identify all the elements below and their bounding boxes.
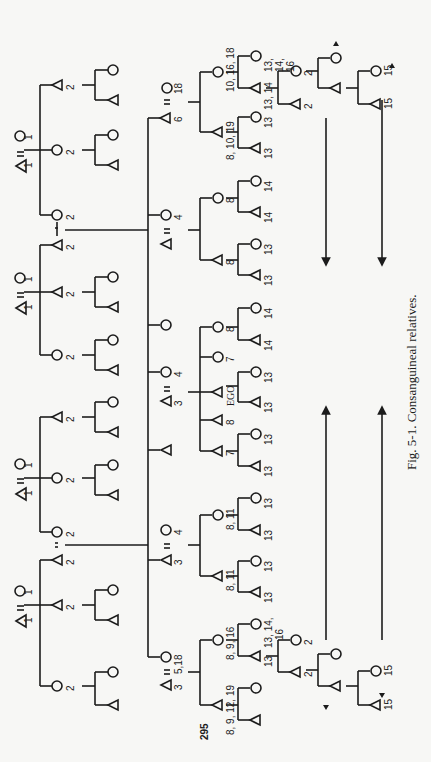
svg-text:2: 2 <box>65 416 76 422</box>
svg-text:8, 11: 8, 11 <box>225 508 236 530</box>
svg-text:13: 13 <box>263 591 274 603</box>
svg-text:13: 13 <box>263 529 274 541</box>
svg-text:6: 6 <box>173 116 184 122</box>
svg-text:4: 4 <box>173 371 184 377</box>
svg-text:3: 3 <box>173 400 184 406</box>
svg-text:1: 1 <box>23 304 34 310</box>
svg-text:5,18: 5,18 <box>173 654 184 674</box>
svg-text:2: 2 <box>65 559 76 565</box>
svg-text:13: 13 <box>263 147 274 159</box>
kinship-diagram: 1 1 1 1 1 1 1 1 2 2 2 2 2 2 2 2 2 2 2 2 … <box>0 0 431 762</box>
page-number: 295 <box>199 723 210 740</box>
circle-female-icon <box>52 210 62 220</box>
svg-text:13,: 13, <box>263 58 274 72</box>
svg-text:2: 2 <box>65 214 76 220</box>
svg-text:2: 2 <box>303 639 314 645</box>
svg-text:15: 15 <box>383 64 394 76</box>
svg-text:14,: 14, <box>274 58 285 72</box>
svg-text:2: 2 <box>65 244 76 250</box>
svg-text:18: 18 <box>173 82 184 94</box>
triangle-male-icon <box>52 80 62 90</box>
svg-text:8: 8 <box>225 259 236 265</box>
svg-text:13: 13 <box>263 116 274 128</box>
circle-female-icon <box>52 145 62 155</box>
svg-text:3: 3 <box>173 559 184 565</box>
svg-text:15: 15 <box>383 698 394 710</box>
svg-text:8, 10, 19: 8, 10, 19 <box>225 121 236 160</box>
svg-text:2: 2 <box>65 477 76 483</box>
svg-text:8, 9, 16: 8, 9, 16 <box>225 626 236 660</box>
svg-text:2: 2 <box>65 604 76 610</box>
svg-text:2: 2 <box>65 531 76 537</box>
svg-text:13: 13 <box>263 243 274 255</box>
svg-text:13: 13 <box>263 401 274 413</box>
svg-text:3: 3 <box>173 684 184 690</box>
svg-text:15: 15 <box>383 664 394 676</box>
svg-text:2: 2 <box>303 671 314 677</box>
svg-text:8: 8 <box>225 419 236 425</box>
svg-text:1: 1 <box>23 617 34 623</box>
svg-text:1: 1 <box>23 134 34 140</box>
svg-text:16: 16 <box>274 628 285 640</box>
svg-text:14: 14 <box>263 307 274 319</box>
svg-text:13: 13 <box>263 465 274 477</box>
svg-text:8, 11: 8, 11 <box>225 569 236 591</box>
figure-caption: Fig. 5-1. Consanguineal relatives. <box>404 295 419 470</box>
svg-text:2: 2 <box>65 84 76 90</box>
svg-text:2: 2 <box>65 291 76 297</box>
triangle-male-icon <box>160 113 170 123</box>
svg-text:14: 14 <box>263 180 274 192</box>
svg-text:2: 2 <box>303 103 314 109</box>
svg-text:8: 8 <box>225 197 236 203</box>
svg-text:1: 1 <box>23 462 34 468</box>
svg-text:1: 1 <box>23 162 34 168</box>
svg-text:10, 16, 18: 10, 16, 18 <box>225 47 236 92</box>
svg-text:13: 13 <box>263 560 274 572</box>
svg-text:1: 1 <box>23 276 34 282</box>
svg-text:16: 16 <box>285 60 296 72</box>
svg-text:13: 13 <box>263 274 274 286</box>
svg-text:1: 1 <box>23 589 34 595</box>
svg-text:7: 7 <box>225 450 236 456</box>
svg-text:13: 13 <box>263 655 274 667</box>
svg-text:13: 13 <box>263 433 274 445</box>
ego-triangle-icon <box>212 387 222 397</box>
svg-text:2: 2 <box>65 685 76 691</box>
svg-text:8, 9, 12, 19: 8, 9, 12, 19 <box>225 685 236 735</box>
svg-text:13, 14,: 13, 14, <box>263 617 274 648</box>
svg-text:7: 7 <box>225 356 236 362</box>
svg-text:8: 8 <box>225 326 236 332</box>
svg-text:EGO: EGO <box>225 385 236 406</box>
svg-text:2: 2 <box>303 70 314 76</box>
svg-text:13: 13 <box>263 497 274 509</box>
svg-text:13, 14: 13, 14 <box>263 82 274 110</box>
svg-text:15: 15 <box>383 97 394 109</box>
svg-text:13: 13 <box>263 371 274 383</box>
svg-text:4: 4 <box>173 214 184 220</box>
svg-text:14: 14 <box>263 211 274 223</box>
svg-text:2: 2 <box>65 354 76 360</box>
svg-text:4: 4 <box>173 529 184 535</box>
svg-text:2: 2 <box>65 149 76 155</box>
svg-text:14: 14 <box>263 339 274 351</box>
svg-text:1: 1 <box>23 490 34 496</box>
